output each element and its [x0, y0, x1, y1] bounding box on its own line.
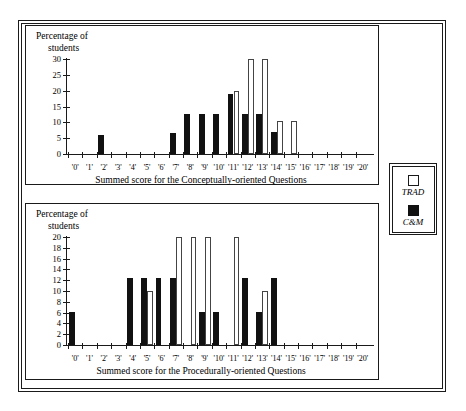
- bar-candm-9: [199, 312, 205, 345]
- x-tick-mark: [82, 152, 83, 158]
- x-tick-mark: [68, 152, 69, 158]
- x-tick-mark: [126, 152, 127, 158]
- x-tick-label-11: '11': [228, 164, 239, 172]
- y-tick-mark: [63, 107, 70, 108]
- x-tick-mark: [183, 343, 184, 349]
- bar-trad-5: [147, 291, 153, 345]
- y-axis-label-top: Percentage of students: [36, 31, 146, 54]
- y-tick-label: 0: [57, 150, 61, 159]
- y-tick-mark: [63, 334, 70, 335]
- x-tick-mark: [312, 343, 313, 349]
- x-tick-label-2: '2': [100, 355, 107, 363]
- y-tick-label: 14: [53, 265, 62, 274]
- y-tick-label: 2: [57, 330, 61, 339]
- chart-panel-procedurally-oriented: Percentage of students 02468101214161820…: [25, 203, 379, 380]
- bar-candm-6: [156, 278, 162, 346]
- y-axis-label-bottom-line2: students: [36, 221, 146, 233]
- y-tick-label: 10: [53, 287, 62, 296]
- y-tick-mark: [63, 237, 70, 238]
- y-tick-label: 8: [57, 298, 61, 307]
- bar-candm-7: [170, 278, 176, 346]
- series-legend-inner-border: TRAD C&M: [392, 166, 435, 233]
- y-tick-mark: [63, 122, 70, 123]
- y-tick-mark: [63, 280, 70, 281]
- x-tick-label-3: '3': [115, 355, 122, 363]
- x-tick-label-20: '20': [357, 164, 368, 172]
- y-tick-mark: [63, 75, 70, 76]
- bar-candm-13: [256, 312, 262, 345]
- x-tick-label-10: '10': [214, 355, 225, 363]
- y-tick-label: 25: [53, 71, 62, 80]
- y-axis-label-bottom-line1: Percentage of: [36, 209, 88, 219]
- x-tick-label-14: '14': [271, 164, 282, 172]
- legend-label-cm: C&M: [393, 218, 434, 227]
- x-tick-mark: [298, 152, 299, 158]
- x-tick-label-15: '15': [285, 355, 296, 363]
- bar-candm-2: [98, 135, 104, 154]
- bar-candm-12: [242, 278, 248, 346]
- bar-trad-13: [262, 59, 268, 154]
- x-tick-label-0: '0': [72, 355, 79, 363]
- x-axis-title-bottom: Summed score for the Procedurally-orient…: [26, 366, 376, 377]
- y-axis-label-top-line1: Percentage of: [36, 31, 88, 41]
- bar-candm-7: [170, 133, 176, 154]
- x-tick-label-5: '5': [144, 164, 151, 172]
- legend-label-trad: TRAD: [393, 188, 434, 197]
- x-tick-label-0: '0': [72, 164, 79, 172]
- y-tick-mark: [63, 291, 70, 292]
- x-tick-label-8: '8': [187, 164, 194, 172]
- x-tick-label-3: '3': [115, 164, 122, 172]
- x-tick-mark: [154, 152, 155, 158]
- x-tick-label-9: '9': [201, 355, 208, 363]
- y-tick-label: 0: [57, 341, 61, 350]
- x-tick-label-12: '12': [242, 355, 253, 363]
- x-tick-mark: [298, 343, 299, 349]
- x-tick-label-15: '15': [285, 164, 296, 172]
- y-tick-label: 12: [53, 276, 62, 285]
- x-tick-mark: [226, 343, 227, 349]
- x-tick-label-1: '1': [86, 355, 93, 363]
- x-tick-label-13: '13': [257, 164, 268, 172]
- x-tick-mark: [341, 343, 342, 349]
- x-tick-mark: [140, 152, 141, 158]
- y-tick-label: 16: [53, 254, 62, 263]
- x-tick-mark: [341, 152, 342, 158]
- legend-entry-cm: C&M: [393, 205, 434, 227]
- y-tick-mark: [63, 269, 70, 270]
- bar-candm-9: [199, 114, 205, 154]
- x-tick-label-7: '7': [172, 355, 179, 363]
- x-axis-title-top: Summed score for the Conceptually-orient…: [26, 175, 376, 186]
- x-tick-label-19: '19': [343, 355, 354, 363]
- bar-candm-10: [213, 312, 219, 345]
- y-tick-label: 10: [53, 118, 62, 127]
- x-tick-label-10: '10': [214, 164, 225, 172]
- legend-swatch-cm-icon: [408, 205, 419, 216]
- bar-trad-13: [262, 291, 268, 345]
- y-tick-mark: [63, 91, 70, 92]
- y-tick-label: 4: [57, 319, 61, 328]
- x-tick-label-5: '5': [144, 355, 151, 363]
- x-tick-mark: [82, 343, 83, 349]
- x-tick-label-13: '13': [257, 355, 268, 363]
- bar-candm-8: [184, 114, 190, 154]
- plot-area-procedurally-oriented: 02468101214161820'0''1''2''3''4''5''6''7…: [66, 236, 368, 346]
- x-tick-label-6: '6': [158, 164, 165, 172]
- y-tick-mark: [63, 323, 70, 324]
- bar-trad-9: [205, 237, 211, 345]
- y-tick-mark: [63, 248, 70, 249]
- bar-candm-0: [69, 312, 75, 345]
- x-tick-mark: [284, 152, 285, 158]
- y-tick-mark: [63, 313, 70, 314]
- bar-trad-15: [291, 121, 297, 154]
- x-tick-label-18: '18': [329, 355, 340, 363]
- x-tick-mark: [111, 152, 112, 158]
- x-tick-mark: [312, 152, 313, 158]
- bar-candm-14: [271, 278, 277, 346]
- y-axis-label-bottom: Percentage of students: [36, 209, 146, 232]
- x-tick-label-8: '8': [187, 355, 194, 363]
- x-tick-label-1: '1': [86, 164, 93, 172]
- bar-trad-7: [176, 237, 182, 345]
- y-tick-mark: [63, 259, 70, 260]
- y-tick-label: 20: [53, 233, 62, 242]
- y-tick-label: 6: [57, 308, 61, 317]
